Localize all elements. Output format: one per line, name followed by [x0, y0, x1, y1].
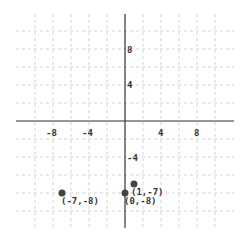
point-label-1-neg7: (1,-7) [131, 187, 164, 197]
coordinate-plane: -8 -4 4 8 8 4 -4 (-7,-8) (0,-8) (1,-7) [0, 0, 245, 234]
x-tick-neg8: -8 [46, 128, 57, 138]
point-label-0-neg8: (0,-8) [124, 196, 157, 206]
y-tick-neg4: -4 [127, 153, 138, 163]
x-tick-8: 8 [194, 128, 199, 138]
y-tick-8: 8 [127, 45, 132, 55]
x-tick-4: 4 [158, 128, 164, 138]
point-label-neg7-neg8: (-7,-8) [61, 196, 99, 206]
x-tick-neg4: -4 [82, 128, 93, 138]
y-tick-4: 4 [127, 80, 133, 90]
